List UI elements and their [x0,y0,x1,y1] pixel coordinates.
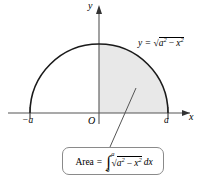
x-axis-label: x [189,112,193,122]
curve-equation-lhs: y [138,38,142,48]
area-formula-equals: = [97,157,102,167]
origin-label: O [88,116,95,126]
curve-equation-equals: = [145,38,150,48]
figure-root: y x O −a a y=√a2−x2 Area=∫a0√a2−x2dx [0,0,202,184]
y-axis-label: y [88,1,92,11]
area-formula-box: Area=∫a0√a2−x2dx [62,147,164,175]
area-formula-radical: √a2−x2 [112,155,142,168]
shaded-area-region [99,44,168,113]
area-radicand-exponent: 2 [122,156,125,163]
integral-lower-limit: 0 [106,167,109,174]
integral-symbol-group: ∫a0 [106,154,110,170]
curve-equation-radical: √a2−x2 [154,36,184,49]
area-formula-text: Area=∫a0√a2−x2dx [63,148,165,176]
radical-vinculum [117,156,142,157]
radical-vinculum [159,37,184,38]
tick-label-negative-a: −a [22,116,33,126]
area-formula-minus: − [127,159,132,169]
y-axis-arrowhead [96,5,102,14]
differential-dx: dx [144,157,153,167]
area-subtrahend-exponent: 2 [138,156,141,163]
curve-equation-label: y=√a2−x2 [138,36,184,49]
area-formula-label: Area [75,157,93,167]
curve-equation-minus: − [169,38,174,48]
tick-label-positive-a: a [164,116,169,126]
